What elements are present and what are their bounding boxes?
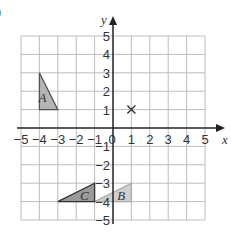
y-tick-label: −2 <box>95 158 110 173</box>
y-axis-arrow-icon <box>109 16 117 25</box>
y-tick-label: −5 <box>95 213 110 228</box>
y-tick-label: −1 <box>95 139 110 154</box>
y-tick-label: 1 <box>103 103 110 118</box>
y-tick-label: −3 <box>95 176 110 191</box>
coordinate-grid: ABC−5−4−3−2−1012345−5−4−3−2−112345xy <box>0 0 232 242</box>
x-tick-label: 2 <box>146 132 153 147</box>
x-tick-label: 1 <box>128 132 135 147</box>
y-tick-label: 4 <box>103 47 110 62</box>
x-tick-label: 3 <box>165 132 172 147</box>
y-tick-label: −4 <box>95 195 110 210</box>
x-tick-label: −4 <box>32 132 47 147</box>
x-axis-arrow-icon <box>216 124 225 132</box>
x-tick-label: 4 <box>183 132 190 147</box>
x-tick-label: −2 <box>69 132 84 147</box>
x-tick-label: −5 <box>14 132 29 147</box>
y-tick-label: 3 <box>103 66 110 81</box>
x-axis-label: x <box>221 132 228 147</box>
triangle-label-a: A <box>38 90 47 105</box>
y-tick-label: 5 <box>103 29 110 44</box>
x-tick-label: 5 <box>201 132 208 147</box>
triangle-label-c: C <box>80 188 89 203</box>
y-tick-label: 2 <box>103 84 110 99</box>
triangle-label-b: B <box>117 188 125 203</box>
x-tick-label: −3 <box>50 132 65 147</box>
y-axis-label: y <box>99 12 107 27</box>
